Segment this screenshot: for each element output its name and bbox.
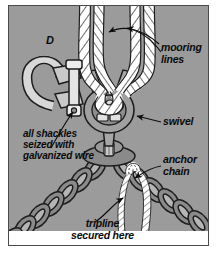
label-anchor-chain: anchor chain	[163, 154, 197, 178]
label-mooring-lines: mooring lines	[161, 42, 202, 66]
illustration-plate: D mooring lines swivel anchor chain all …	[8, 5, 209, 246]
illustration-figure: D mooring lines swivel anchor chain all …	[0, 0, 218, 253]
anchor-shackle-detail	[22, 57, 83, 116]
mooring-line-rope-left	[79, 6, 118, 97]
label-swivel: swivel	[163, 116, 193, 128]
label-shackles-note: all shackles seized with galvanized wire	[23, 128, 94, 162]
leader-swivel	[137, 116, 161, 122]
mooring-line-rope-right	[115, 6, 156, 96]
label-tripline: tripline secured here	[71, 218, 134, 242]
panel-letter: D	[46, 34, 54, 46]
